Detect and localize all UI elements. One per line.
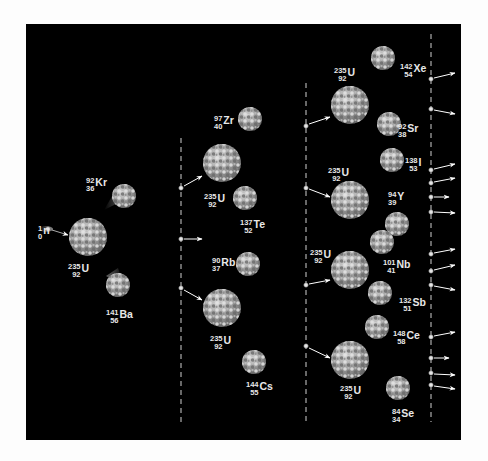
nuclide-numbers: 235 92 <box>328 167 341 183</box>
atomic-number: 92 <box>334 75 347 83</box>
nuclide-label-i: 138 53 I <box>405 156 421 173</box>
nuclide-label-nb: 101 41 Nb <box>383 258 411 275</box>
atomic-number: 58 <box>393 338 406 346</box>
nuclide-label-u3b: 235 92 U <box>328 166 349 183</box>
uranium-235-nucleus <box>203 144 241 182</box>
nuclide-numbers: 235 92 <box>310 249 323 265</box>
selenium-84-fragment <box>386 376 410 400</box>
nuclide-numbers: 84 34 <box>392 408 400 424</box>
element-symbol: Sr <box>407 123 418 134</box>
nuclide-label-se: 84 34 Se <box>392 407 414 424</box>
element-symbol: Xe <box>414 63 427 74</box>
cesium-144-fragment <box>242 350 266 374</box>
nuclide-numbers: 141 56 <box>106 309 119 325</box>
atomic-number: 56 <box>106 317 119 325</box>
nuclide-numbers: 138 53 <box>405 157 418 173</box>
nuclide-numbers: 148 58 <box>393 330 406 346</box>
atomic-number: 36 <box>86 185 94 193</box>
nuclide-label-u2b: 235 92 U <box>210 334 231 351</box>
niobium-101-fragment <box>370 230 394 254</box>
atomic-number: 54 <box>400 71 413 79</box>
nuclide-numbers: 142 54 <box>400 63 413 79</box>
nuclide-numbers: 1 0 <box>38 225 42 241</box>
atomic-number: 51 <box>399 305 412 313</box>
atomic-number: 92 <box>210 343 223 351</box>
uranium-235-nucleus <box>331 181 369 219</box>
atomic-number: 34 <box>392 416 400 424</box>
nuclide-label-kr: 92 36 Kr <box>86 176 107 193</box>
generation-3 <box>331 46 410 400</box>
element-symbol: U <box>82 263 90 274</box>
atomic-number: 92 <box>328 175 341 183</box>
nuclide-numbers: 132 51 <box>399 297 412 313</box>
element-symbol: Rb <box>221 257 235 268</box>
atomic-number: 38 <box>398 131 406 139</box>
nuclide-numbers: 235 92 <box>210 335 223 351</box>
element-symbol: Zr <box>223 115 234 126</box>
atomic-number: 41 <box>383 267 396 275</box>
nuclide-label-u3d: 235 92 U <box>340 384 361 401</box>
nuclide-numbers: 101 41 <box>383 259 396 275</box>
atomic-number: 37 <box>212 265 220 273</box>
atomic-number: 92 <box>340 393 353 401</box>
element-symbol: U <box>224 335 232 346</box>
nuclide-label-sb: 132 51 Sb <box>399 296 426 313</box>
element-symbol: Sb <box>413 297 426 308</box>
atomic-number: 92 <box>68 271 81 279</box>
nuclide-label-sr: 92 38 Sr <box>398 122 418 139</box>
nuclide-label-ce: 148 58 Ce <box>393 329 420 346</box>
tellurium-137-fragment <box>233 186 257 210</box>
neutrons-gen2 <box>303 117 330 358</box>
atomic-number: 40 <box>214 123 222 131</box>
element-symbol: Nb <box>397 259 411 270</box>
barium-141-fragment <box>106 268 130 297</box>
zirconium-97-fragment <box>238 107 262 131</box>
neutrons-gen3 <box>428 73 455 389</box>
atomic-number: 55 <box>246 389 259 397</box>
generation-1 <box>39 184 136 297</box>
nuclide-numbers: 235 92 <box>204 193 217 209</box>
uranium-235-nucleus <box>69 218 107 256</box>
nuclide-numbers: 144 55 <box>246 381 259 397</box>
element-symbol: U <box>324 249 332 260</box>
element-symbol: U <box>348 67 356 78</box>
neutrons-gen1 <box>178 176 202 300</box>
cerium-148-fragment <box>365 315 389 339</box>
nuclide-label-u1: 235 92 U <box>68 262 89 279</box>
element-symbol: n <box>43 225 49 236</box>
atomic-number: 92 <box>204 201 217 209</box>
nuclide-numbers: 235 92 <box>334 67 347 83</box>
atomic-number: 0 <box>38 233 42 241</box>
atomic-number: 52 <box>240 227 253 235</box>
nuclide-label-y: 94 39 Y <box>388 190 404 207</box>
uranium-235-nucleus <box>331 86 369 124</box>
element-symbol: U <box>342 167 350 178</box>
element-symbol: U <box>218 193 226 204</box>
xenon-142-fragment <box>371 46 395 70</box>
atomic-number: 92 <box>310 257 323 265</box>
atomic-number: 39 <box>388 199 396 207</box>
nuclide-label-xe: 142 54 Xe <box>400 62 426 79</box>
element-symbol: U <box>354 385 362 396</box>
nuclide-label-rb: 90 37 Rb <box>212 256 235 273</box>
uranium-235-nucleus <box>331 341 369 379</box>
nuclide-numbers: 97 40 <box>214 115 222 131</box>
uranium-235-nucleus <box>331 251 369 289</box>
nuclide-numbers: 92 38 <box>398 123 406 139</box>
antimony-132-fragment <box>368 281 392 305</box>
element-symbol: Se <box>401 408 414 419</box>
element-symbol: Kr <box>95 177 107 188</box>
nuclide-numbers: 235 92 <box>68 263 81 279</box>
element-symbol: Ba <box>120 309 133 320</box>
nuclide-numbers: 137 52 <box>240 219 253 235</box>
nuclide-label-ba: 141 56 Ba <box>106 308 133 325</box>
nuclide-numbers: 92 36 <box>86 177 94 193</box>
element-symbol: Ce <box>407 330 420 341</box>
nuclide-label-u3a: 235 92 U <box>334 66 355 83</box>
krypton-92-fragment <box>104 184 136 210</box>
element-symbol: Y <box>397 191 404 202</box>
rubidium-90-fragment <box>236 252 260 276</box>
element-symbol: Te <box>254 219 265 230</box>
atomic-number: 53 <box>405 165 418 173</box>
nuclide-label-n0: 1 0 n <box>38 224 50 241</box>
